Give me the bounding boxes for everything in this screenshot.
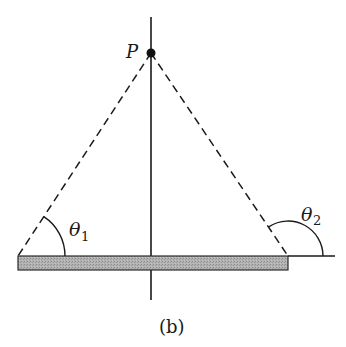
dashed-line-right	[151, 53, 288, 256]
figure-caption: (b)	[159, 316, 185, 337]
point-p-label: P	[125, 41, 139, 62]
rod-bar	[18, 256, 288, 270]
angle-arc-theta1	[44, 217, 65, 256]
dashed-line-left	[18, 53, 151, 256]
theta2-subscript: 2	[313, 213, 321, 228]
theta2-label: θ	[301, 203, 313, 225]
theta1-subscript: 1	[81, 229, 89, 244]
theta1-label: θ	[69, 218, 81, 240]
physics-diagram: P θ 1 θ 2 (b)	[0, 0, 346, 347]
point-p-dot	[147, 49, 156, 58]
